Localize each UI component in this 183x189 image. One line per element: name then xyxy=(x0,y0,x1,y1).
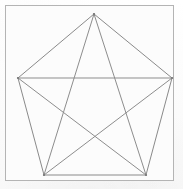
pentagon-diagram-svg xyxy=(0,0,183,189)
vertex-bottom-left-marker xyxy=(43,174,45,176)
vertex-top-marker xyxy=(93,13,95,15)
vertex-left-marker xyxy=(17,77,19,79)
outer-border-rectangle xyxy=(6,6,174,181)
vertex-right-marker xyxy=(171,77,173,79)
figure-container xyxy=(0,0,183,189)
vertex-bottom-right-marker xyxy=(145,174,147,176)
